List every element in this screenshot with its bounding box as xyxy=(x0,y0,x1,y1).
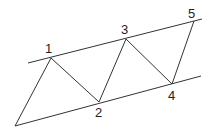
zigzag-diagram: 1 2 3 4 5 xyxy=(0,0,213,132)
point-label-1: 1 xyxy=(45,41,52,56)
point-label-4: 4 xyxy=(168,88,175,103)
upper-parallel-line xyxy=(28,19,202,63)
point-label-5: 5 xyxy=(188,6,195,21)
zigzag-path xyxy=(15,21,194,126)
point-label-3: 3 xyxy=(121,22,128,37)
point-label-2: 2 xyxy=(95,105,102,120)
